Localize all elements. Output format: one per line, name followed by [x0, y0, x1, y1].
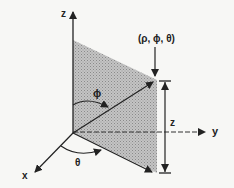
y-axis-label: y [212, 125, 219, 137]
phi-label: ϕ [93, 87, 101, 99]
diagram-canvas: z y x (ρ, ϕ, θ) ϕ θ z [0, 0, 234, 188]
point-label: (ρ, ϕ, θ) [138, 33, 175, 44]
cylindrical-coordinate-diagram: z y x (ρ, ϕ, θ) ϕ θ z [0, 0, 234, 188]
height-arrow-up-icon [161, 82, 169, 90]
z-axis-label: z [61, 8, 66, 19]
height-arrow-down-icon [161, 164, 169, 172]
theta-arc [61, 146, 101, 153]
height-label: z [170, 117, 175, 128]
x-axis-label: x [22, 170, 28, 181]
x-axis [35, 133, 73, 172]
theta-label: θ [75, 157, 80, 168]
